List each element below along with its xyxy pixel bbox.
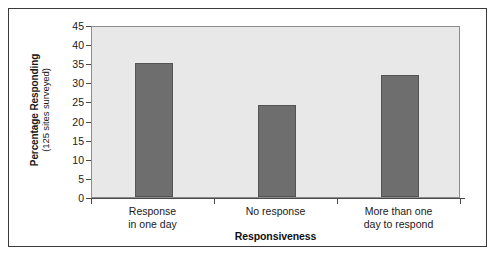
x-axis-category-label: Responsein one day	[91, 205, 214, 231]
x-axis-category-label: No response	[214, 205, 337, 218]
y-axis-tick-labels: 051015202530354045	[56, 0, 84, 264]
bar	[258, 105, 296, 197]
y-axis-tick-label: 40	[58, 40, 84, 51]
cut-off-caption	[10, 259, 430, 264]
x-axis-tick-mark	[337, 199, 338, 204]
x-axis-tick-mark	[214, 199, 215, 204]
y-axis-tick-label: 5	[58, 174, 84, 185]
y-axis-tick-label: 35	[58, 59, 84, 70]
x-axis-category-label: More than oneday to respond	[337, 205, 460, 231]
y-axis-tick-label: 30	[58, 78, 84, 89]
x-axis-tick-mark	[91, 199, 92, 204]
y-axis-title-sub: (125 sites surveyed)	[41, 54, 51, 166]
bar	[381, 75, 419, 197]
bars-layer	[92, 27, 459, 197]
y-axis-tick-label: 20	[58, 116, 84, 127]
bar	[135, 63, 173, 197]
y-axis-tick-label: 25	[58, 97, 84, 108]
y-axis-tick-label: 15	[58, 135, 84, 146]
plot-area	[91, 26, 460, 198]
y-axis-tick-label: 0	[58, 193, 84, 204]
y-axis-tick-label: 45	[58, 21, 84, 32]
y-axis-title: Percentage Responding (125 sites surveye…	[24, 20, 58, 200]
y-axis-tick-label: 10	[58, 155, 84, 166]
x-axis-tick-mark	[460, 199, 461, 204]
x-axis-title: Responsiveness	[91, 230, 460, 242]
bar-chart-figure: Percentage Responding (125 sites surveye…	[0, 0, 495, 264]
